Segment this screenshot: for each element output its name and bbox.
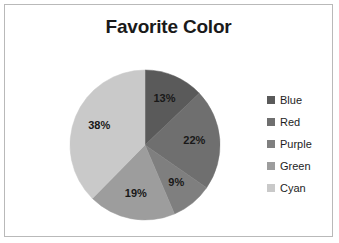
pie-data-label-red: 22%	[183, 134, 205, 146]
legend-item-cyan[interactable]: Cyan	[267, 177, 337, 199]
legend-swatch-icon	[267, 140, 275, 148]
pie-data-label-purple: 9%	[168, 176, 184, 188]
legend-item-red[interactable]: Red	[267, 111, 337, 133]
pie-chart-svg: 13%22%9%19%38%	[69, 69, 221, 221]
chart-legend: BlueRedPurpleGreenCyan	[267, 89, 337, 199]
legend-item-label: Green	[280, 161, 311, 172]
legend-item-label: Purple	[280, 139, 312, 150]
legend-item-label: Cyan	[280, 183, 306, 194]
pie-data-label-green: 19%	[125, 187, 147, 199]
legend-swatch-icon	[267, 118, 275, 126]
chart-frame: Favorite Color 13%22%9%19%38% BlueRedPur…	[4, 4, 333, 237]
legend-swatch-icon	[267, 96, 275, 104]
legend-item-label: Red	[280, 117, 300, 128]
legend-item-blue[interactable]: Blue	[267, 89, 337, 111]
pie-chart-plot-area[interactable]: 13%22%9%19%38%	[69, 69, 221, 221]
pie-data-label-cyan: 38%	[88, 119, 110, 131]
chart-title: Favorite Color	[5, 16, 332, 38]
legend-item-label: Blue	[280, 95, 302, 106]
legend-swatch-icon	[267, 184, 275, 192]
legend-item-green[interactable]: Green	[267, 155, 337, 177]
legend-item-purple[interactable]: Purple	[267, 133, 337, 155]
pie-data-label-blue: 13%	[153, 92, 175, 104]
legend-swatch-icon	[267, 162, 275, 170]
